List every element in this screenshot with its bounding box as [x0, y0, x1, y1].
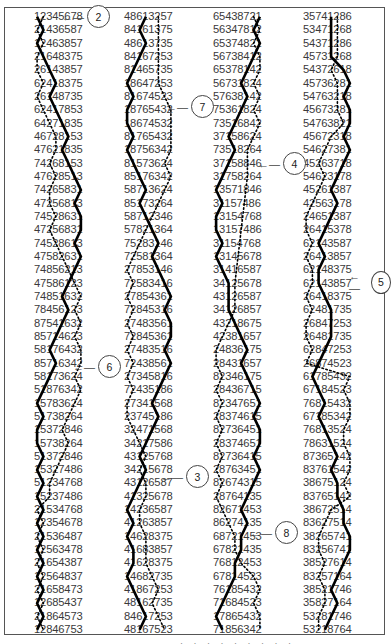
change-row: 34126857 — [213, 303, 262, 316]
change-row: 84167253 — [124, 50, 173, 63]
change-row: 43125768 — [124, 450, 173, 463]
change-row: 12463857 — [34, 37, 83, 50]
change-row: 45736281 — [303, 77, 352, 90]
change-row: 85714623 — [34, 330, 83, 343]
change-row: 23745186 — [124, 410, 173, 423]
left-arrow-icon: ←— — [166, 101, 188, 113]
change-row: 18674532 — [124, 117, 173, 130]
change-row: 28763451 — [213, 463, 262, 476]
callout-8: ←—8 — [250, 521, 298, 544]
change-row: 73518264 — [213, 143, 262, 156]
change-row: 76185432 — [213, 583, 262, 596]
change-row: 24836175 — [213, 343, 262, 356]
callout-4: ←—4 — [258, 152, 306, 175]
change-row: 48167523 — [124, 623, 173, 636]
change-row: 35741286 — [303, 10, 352, 23]
change-row: 41867253 — [124, 583, 173, 596]
left-arrow-icon: ←— — [349, 270, 368, 294]
change-row: 56731824 — [213, 77, 262, 90]
cut-off-footer-text: · · · · · · · · · — [180, 638, 295, 644]
change-row: 81573624 — [124, 157, 173, 170]
change-row: 28431657 — [213, 357, 262, 370]
change-row: 28374615 — [213, 410, 262, 423]
change-row: 54372618 — [303, 63, 352, 76]
change-row: 27853146 — [124, 263, 173, 276]
change-row: 71856342 — [213, 623, 262, 636]
callout-3: ←—3 — [161, 465, 209, 488]
change-row: 34217586 — [124, 437, 173, 450]
change-row: 74265831 — [34, 183, 83, 196]
change-row: 78631524 — [303, 437, 352, 450]
column-4: 3574128653471268543712864573126854372618… — [303, 10, 352, 636]
change-row: 47621835 — [34, 143, 83, 156]
change-row: 48613735 — [124, 37, 173, 50]
change-row: 82736415 — [213, 450, 262, 463]
change-row: 74268153 — [34, 157, 83, 170]
change-row: 78456123 — [34, 303, 83, 316]
change-row: 45673281 — [303, 103, 352, 116]
change-row: 67821435 — [213, 543, 262, 556]
change-row: 21658473 — [34, 583, 83, 596]
change-row: 82347651 — [213, 397, 262, 410]
change-row: 12846753 — [34, 623, 83, 636]
change-row: 31157486 — [213, 197, 262, 210]
change-row: 45731268 — [303, 50, 352, 63]
change-row: 15372846 — [34, 423, 83, 436]
change-row: 12685437 — [34, 596, 83, 609]
change-row: 67185342 — [303, 410, 352, 423]
change-row: 27483516 — [124, 343, 173, 356]
change-row: 83765142 — [303, 490, 352, 503]
change-row: 12354678 — [34, 516, 83, 529]
change-row: 58713624 — [124, 183, 173, 196]
change-row: 85173264 — [124, 197, 173, 210]
change-row: 58712346 — [124, 210, 173, 223]
change-row: 27345816 — [124, 370, 173, 383]
change-row: 31416587 — [213, 263, 262, 276]
change-row: 64271835 — [34, 117, 83, 130]
change-row: 62148375 — [303, 263, 352, 276]
change-row: 15738264 — [34, 437, 83, 450]
change-row: 87365142 — [303, 450, 352, 463]
change-row: 85176342 — [124, 170, 173, 183]
change-row: 72581364 — [124, 250, 173, 263]
change-row: 57821364 — [124, 223, 173, 236]
change-row: 15327486 — [34, 463, 83, 476]
change-row: 76812453 — [213, 556, 262, 569]
change-row: 41683857 — [124, 543, 173, 556]
change-row: 65378142 — [213, 63, 262, 76]
change-row: 38265741 — [303, 530, 352, 543]
change-row: 82736451 — [213, 423, 262, 436]
change-row: 37158624 — [213, 130, 262, 143]
change-row: 45261387 — [303, 183, 352, 196]
change-row: 72583416 — [124, 277, 173, 290]
change-row: 82346175 — [213, 370, 262, 383]
change-row: 28436715 — [213, 383, 262, 396]
change-row: 47582631 — [34, 250, 83, 263]
change-row: 83761542 — [303, 463, 352, 476]
change-row: 74528613 — [34, 237, 83, 250]
change-row: 46728153 — [34, 130, 83, 143]
change-row: 41325678 — [124, 490, 173, 503]
change-row: 38527614 — [303, 556, 352, 569]
change-row: 41263857 — [124, 516, 173, 529]
change-row: 47256831 — [34, 223, 83, 236]
left-arrow-icon: ←— — [73, 361, 95, 373]
change-row: 72435186 — [124, 383, 173, 396]
callout-7: ←—7 — [166, 95, 214, 118]
change-row: 18647253 — [124, 77, 173, 90]
change-row: 83627514 — [303, 516, 352, 529]
change-row: 54763218 — [303, 90, 352, 103]
change-row: 51372846 — [34, 450, 83, 463]
change-row: 31758264 — [213, 170, 262, 183]
change-row: 27341568 — [124, 397, 173, 410]
change-row: 48613257 — [124, 10, 173, 23]
change-row: 53471268 — [303, 23, 352, 36]
change-row: 67184523 — [303, 383, 352, 396]
change-row: 37158846 — [213, 157, 262, 170]
change-row: 13571846 — [213, 183, 262, 196]
left-arrow-icon: ←— — [62, 11, 84, 23]
change-row: 72845316 — [124, 303, 173, 316]
change-row: 51234768 — [34, 476, 83, 489]
change-row: 72438561 — [124, 357, 173, 370]
change-row: 84617253 — [124, 610, 173, 623]
